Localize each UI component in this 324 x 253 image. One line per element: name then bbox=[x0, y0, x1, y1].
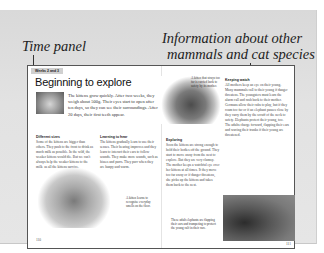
annotation-info-line2: mammals and cat species bbox=[167, 47, 315, 62]
section-text-exploring: Soon the kittens are strong enough to ho… bbox=[166, 143, 220, 188]
lead-paragraph: The kittens grow quickly. After two week… bbox=[68, 93, 158, 118]
section-text-different-sizes: Some of the kittens are bigger than othe… bbox=[36, 140, 94, 170]
section-text-learning-to-hear: The kittens gradually learn to use their… bbox=[100, 140, 158, 170]
page-number-left: 110 bbox=[36, 238, 41, 242]
section-heading-learning-to-hear: Learning to hear bbox=[100, 135, 127, 139]
elephants-photo bbox=[223, 195, 295, 241]
section-heading-keeping-watch: Keeping watch bbox=[225, 78, 250, 82]
page-number-right: 111 bbox=[286, 242, 291, 246]
section-heading-exploring: Exploring bbox=[166, 138, 182, 142]
section-text-keeping-watch: All mothers keep an eye on their young. … bbox=[225, 83, 289, 138]
elephant-caption: These adult elephants are flapping their… bbox=[171, 218, 219, 231]
cat-caption: A kitten that strays too far is carried … bbox=[191, 76, 221, 89]
kitten-sniffing-photo bbox=[38, 168, 110, 228]
section-heading-different-sizes: Different sizes bbox=[36, 135, 60, 139]
page-title: Beginning to explore bbox=[35, 76, 131, 88]
kitten-face-photo bbox=[36, 92, 64, 114]
annotation-time-panel: Time panel bbox=[22, 39, 86, 54]
book-spread: Weeks 2 and 3 Beginning to explore The k… bbox=[27, 65, 295, 249]
kitten-caption: A kitten learns to recognise everyday sm… bbox=[126, 196, 156, 209]
time-panel-tab: Weeks 2 and 3 bbox=[31, 68, 63, 74]
annotation-info-line1: Information about other bbox=[162, 31, 302, 46]
